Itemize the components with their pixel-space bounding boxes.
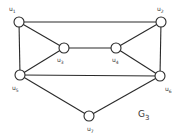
node-u4 [111, 43, 121, 53]
node-u3 [59, 43, 69, 53]
node-label-u7: u7 [87, 125, 94, 134]
node-label-u6: u6 [165, 85, 172, 94]
graph-label-main: G [138, 109, 145, 119]
edge-u2-u4 [116, 22, 161, 48]
node-label-u2: u2 [157, 5, 164, 14]
node-label-u1: u1 [9, 5, 16, 14]
edge-u6-u7 [89, 76, 160, 116]
node-u6 [155, 71, 165, 81]
edge-u2-u6 [160, 22, 161, 76]
node-u7 [84, 111, 94, 121]
edge-u1-u3 [19, 22, 64, 48]
graph-label: G3 [138, 109, 149, 122]
node-label-u4: u4 [112, 56, 119, 65]
graph-canvas: u1u2u3u4u5u6u7 G3 [0, 0, 179, 138]
edge-u4-u6 [116, 48, 160, 76]
graph-label-subscript: 3 [145, 114, 149, 122]
node-u1 [14, 17, 24, 27]
edge-u5-u6 [20, 75, 160, 76]
node-label-u3: u3 [57, 56, 64, 65]
node-label-u5: u5 [12, 84, 19, 93]
edge-u5-u7 [20, 75, 89, 116]
edges-layer [19, 22, 161, 116]
node-u5 [15, 70, 25, 80]
node-u2 [156, 17, 166, 27]
edge-u1-u5 [19, 22, 20, 75]
